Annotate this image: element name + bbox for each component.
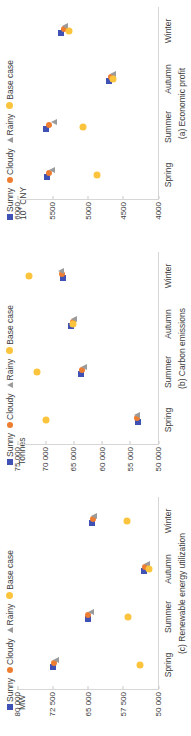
x-axis-tick-label-winter: Winter [163,19,173,44]
chart-caption: (c) Renewable energy utilization [177,497,187,690]
legend-item-base-case: Base case [5,60,15,109]
data-point-rainy [91,513,97,519]
chart-panel-1: SunnyCloudyRainyBase case104 CNY60005500… [0,1,191,246]
chart-panel-2: SunnyCloudyRainyBase caseTonnes75 00070 … [0,246,191,491]
y-axis-tick-label: 70 000 [41,447,50,471]
chart-caption: (a) Economic profit [177,7,187,200]
x-axis-tick-label-winter: Winter [163,509,173,534]
base-case-marker-icon [6,592,13,599]
base-case-marker-icon [6,347,13,354]
chart-legend: SunnyCloudyRainyBase case [3,250,16,465]
legend-label: Rainy [5,359,15,381]
plot-canvas: 60005500500045004000SpringSummerAutumnWi… [17,7,159,200]
y-axis-tick-label: 60 000 [97,447,106,471]
data-point-base-case [109,76,116,83]
chart-legend: SunnyCloudyRainyBase case [3,5,16,220]
triangle-marker-icon [7,382,13,388]
x-axis-tick-label-autumn: Autumn [163,554,173,583]
x-axis-tick-label-summer: Summer [163,356,173,388]
data-point-base-case [33,369,40,376]
x-axis-tick-label-summer: Summer [163,601,173,633]
y-axis-tick-mark [88,686,89,689]
x-axis-tick-label-winter: Winter [163,264,173,289]
y-axis-tick-mark [123,196,124,199]
y-axis-tick-label: 5500 [48,202,57,220]
data-point-base-case [93,172,100,179]
y-axis-tick-label: 4000 [154,202,163,220]
chart-legend: SunnyCloudyRainyBase case [3,495,16,710]
y-axis-tick-label: 50 000 [154,447,163,471]
y-axis-tick-mark [17,196,18,199]
y-axis-tick-label: 72 500 [48,692,57,716]
data-point-rainy [88,609,94,615]
y-axis-tick-label: 4500 [118,202,127,220]
y-axis-tick-mark [52,686,53,689]
data-point-rainy [49,167,55,173]
legend-label: Rainy [5,604,15,626]
circle-marker-icon [7,667,13,673]
legend-label: Base case [5,305,15,345]
data-point-base-case [66,28,73,35]
circle-marker-icon [7,422,13,428]
triangle-marker-icon [7,137,13,143]
y-axis-tick-mark [17,441,18,444]
legend-label: Cloudy [5,638,15,664]
data-point-base-case [124,614,131,621]
y-axis-tick-mark [158,196,159,199]
y-axis-tick-mark [102,441,103,444]
plot-area: 60005500500045004000SpringSummerAutumnWi… [17,7,159,200]
x-axis-tick-label-summer: Summer [163,111,173,143]
y-axis-tick-mark [45,441,46,444]
y-axis-tick-mark [158,686,159,689]
data-point-rainy [134,412,140,418]
legend-item-base-case: Base case [5,550,15,599]
legend-label: Cloudy [5,148,15,174]
legend-label: Base case [5,550,15,590]
legend-item-cloudy: Cloudy [5,638,15,672]
y-axis-tick-mark [52,196,53,199]
circle-marker-icon [7,177,13,183]
legend-label: Rainy [5,114,15,136]
legend-item-rainy: Rainy [5,604,15,634]
y-axis-tick-mark [158,441,159,444]
data-point-base-case [145,566,152,573]
y-axis-tick-label: 57 500 [118,692,127,716]
legend-item-base-case: Base case [5,305,15,354]
y-axis-tick-label: 50 000 [154,692,163,716]
legend-item-rainy: Rainy [5,114,15,144]
plot-area: 80 00072 50065 00057 50050 000SpringSumm… [17,497,159,690]
y-axis-tick-mark [17,686,18,689]
data-point-base-case [136,662,143,669]
figure-container: SunnyCloudyRainyBase caseMW80 00072 5006… [0,0,191,736]
y-axis-tick-label: 80 000 [13,692,22,716]
chart-panel-3: SunnyCloudyRainyBase caseMW80 00072 5006… [0,491,191,736]
y-axis-tick-mark [88,196,89,199]
y-axis-tick-label: 65 000 [69,447,78,471]
data-point-base-case [25,273,32,280]
x-axis-tick-label-autumn: Autumn [163,309,173,338]
data-point-base-case [79,124,86,131]
y-axis-tick-label: 55 000 [125,447,134,471]
y-axis-tick-mark [130,441,131,444]
legend-label: Base case [5,60,15,100]
plot-canvas: 80 00072 50065 00057 50050 000SpringSumm… [17,497,159,690]
legend-item-cloudy: Cloudy [5,148,15,182]
legend-label: Cloudy [5,393,15,419]
plot-area: 75 00070 00065 00060 00055 00050 000Spri… [17,252,159,445]
data-point-base-case [123,518,130,525]
x-axis-tick-label-autumn: Autumn [163,64,173,93]
plot-canvas: 75 00070 00065 00060 00055 00050 000Spri… [17,252,159,445]
y-axis-tick-label: 6000 [13,202,22,220]
legend-item-rainy: Rainy [5,359,15,389]
chart-caption: (b) Carbon emissions [177,252,187,445]
triangle-marker-icon [7,627,13,633]
data-point-base-case [70,321,77,328]
y-axis-tick-label: 65 000 [83,692,92,716]
data-point-rainy [58,268,64,274]
legend-item-cloudy: Cloudy [5,393,15,427]
data-point-rainy [53,657,59,663]
data-point-rainy [51,119,57,125]
y-axis-tick-mark [73,441,74,444]
x-axis-tick-label-spring: Spring [163,653,173,678]
y-axis-tick-label: 5000 [83,202,92,220]
